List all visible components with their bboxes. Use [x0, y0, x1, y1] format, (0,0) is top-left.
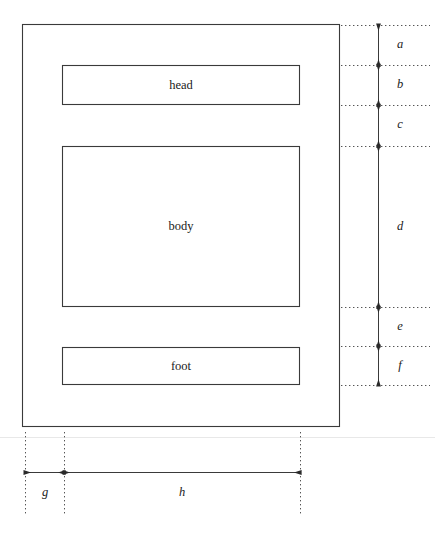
arrowhead-h-right — [294, 470, 302, 475]
arrowhead-f-up — [376, 379, 381, 387]
arrowhead-d-down — [376, 145, 381, 152]
vertical-extension-lines — [341, 26, 430, 386]
body-box-label: body — [62, 220, 300, 233]
dimension-label-f: f — [388, 359, 412, 372]
arrowhead-b-down — [376, 64, 381, 71]
foot-box-label: foot — [62, 360, 300, 373]
dimension-label-d: d — [388, 220, 412, 233]
head-box-label: head — [62, 79, 300, 92]
arrowhead-a-down — [376, 24, 381, 32]
dimension-label-h: h — [170, 486, 194, 499]
dimension-label-a: a — [388, 38, 412, 51]
arrowhead-g-left — [24, 470, 32, 475]
dimension-diagram: head body foot a b c d e f g h — [0, 0, 435, 541]
arrowhead-f-down — [376, 345, 381, 352]
dimension-label-g: g — [33, 486, 57, 499]
dimension-label-c: c — [388, 118, 412, 131]
dimension-label-b: b — [388, 78, 412, 91]
arrowhead-h-left — [63, 470, 70, 475]
arrowhead-e-down — [376, 306, 381, 313]
arrowhead-c-down — [376, 104, 381, 111]
dimension-label-e: e — [388, 320, 412, 333]
